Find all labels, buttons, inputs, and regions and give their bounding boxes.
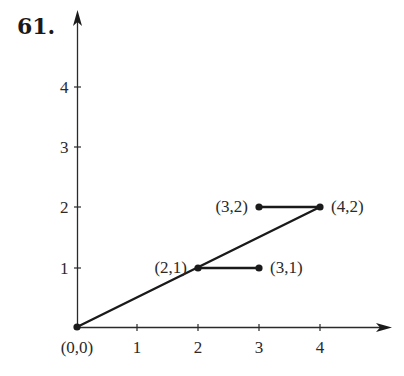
y-axis: 4 3 2 1: [60, 10, 82, 327]
x-tick-label: 1: [133, 338, 142, 357]
problem-number: 61.: [17, 13, 55, 39]
x-axis: 1 2 3 4 (0,0): [61, 323, 392, 357]
point-label: (3,2): [215, 197, 248, 216]
y-tick-label: 3: [60, 138, 69, 157]
point-4-2: [316, 203, 323, 210]
origin-label: (0,0): [61, 338, 94, 357]
point-0-0: [73, 323, 80, 330]
x-tick-label: 2: [194, 338, 203, 357]
graph-figure: 61. 4 3 2 1 1 2 3 4 (0,0): [0, 0, 404, 376]
point-label: (2,1): [154, 258, 187, 277]
y-tick-label: 4: [60, 78, 69, 97]
y-tick-label: 2: [60, 198, 69, 217]
point-label: (4,2): [331, 197, 364, 216]
point-2-1: [194, 264, 201, 271]
y-tick-label: 1: [60, 259, 69, 278]
point-3-1: [255, 264, 262, 271]
x-tick-label: 4: [316, 338, 325, 357]
x-tick-label: 3: [255, 338, 264, 357]
point-label: (3,1): [270, 258, 303, 277]
point-3-2: [255, 203, 262, 210]
